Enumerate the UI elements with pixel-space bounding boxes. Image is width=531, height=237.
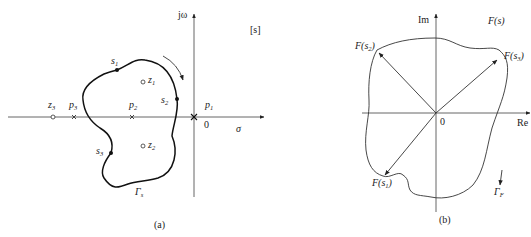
contour-gamma-s (83, 60, 178, 187)
point-s2 (175, 97, 179, 101)
vector-f-s1 (385, 113, 436, 175)
label-p3: p3 (68, 99, 78, 111)
zero-z1 (141, 80, 145, 84)
label-s3: s3 (96, 145, 104, 157)
caption-b: (b) (439, 214, 451, 226)
vector-f-s2 (379, 53, 436, 113)
origin-label-a: 0 (204, 119, 209, 130)
label-s1: s1 (111, 55, 118, 67)
label-f-s1: F(s1) (371, 177, 393, 189)
label-s2: s2 (161, 94, 169, 106)
label-p1: p1 (204, 99, 213, 111)
re-axis-label: Re (517, 117, 529, 128)
zero-z2 (141, 144, 145, 148)
label-p2: p2 (128, 99, 138, 111)
direction-arrow-b (500, 170, 502, 185)
label-f-s2: F(s2) (354, 40, 376, 52)
label-gamma-s: Γs (134, 186, 144, 198)
label-z1: z1 (147, 74, 155, 86)
point-s3 (109, 151, 113, 155)
panel-b: Im F(s) Re 0 F(s2) F(s3) F(s1) ΓF (b) (354, 14, 530, 226)
caption-a: (a) (154, 219, 165, 231)
label-z3: z3 (47, 99, 56, 111)
f-plane-tag: F(s) (487, 15, 505, 27)
im-axis-label: Im (418, 14, 429, 25)
contour-gamma-f (366, 38, 508, 198)
label-gamma-f: ΓF (493, 186, 505, 198)
point-s1 (115, 68, 119, 72)
panel-a: jω [s] σ 0 s1 s2 s3 z1 z2 z3 p1 (8, 9, 264, 231)
origin-label-b: 0 (440, 116, 445, 127)
label-f-s3: F(s3) (503, 50, 525, 62)
s-plane-tag: [s] (250, 24, 261, 35)
direction-arrow-a (163, 56, 183, 80)
label-z2: z2 (147, 139, 156, 151)
jw-axis-label: jω (177, 9, 188, 20)
sigma-axis-label: σ (236, 123, 242, 134)
vector-f-s3 (436, 60, 497, 113)
figure: jω [s] σ 0 s1 s2 s3 z1 z2 z3 p1 (0, 0, 531, 237)
zero-z3 (51, 115, 55, 119)
